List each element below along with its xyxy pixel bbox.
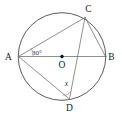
segment-chord-AC: [19, 18, 86, 57]
center-point-dot-O: [60, 55, 63, 58]
angle-label-x: x: [64, 79, 69, 88]
segment-chord-CD: [70, 18, 86, 100]
angle-label-30-degrees: 30°: [32, 49, 42, 57]
circle-geometry-figure: A B C D O 30° x: [0, 0, 122, 115]
segment-chord-CB: [85, 18, 106, 57]
point-label-C: C: [85, 4, 91, 14]
geometry-diagram-canvas: A B C D O 30° x: [0, 0, 122, 115]
center-label-O: O: [59, 60, 66, 70]
point-label-B: B: [108, 52, 114, 62]
point-label-A: A: [5, 52, 12, 62]
point-label-D: D: [66, 103, 73, 113]
